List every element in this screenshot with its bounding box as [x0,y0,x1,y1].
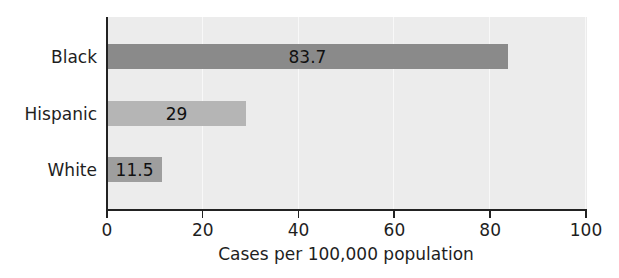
x-axis-title: Cases per 100,000 population [218,244,474,264]
x-tick-label: 60 [384,220,406,240]
bar-value-label: 83.7 [289,47,327,67]
bar-value-label: 29 [166,104,188,124]
category-label: Black [51,47,97,67]
bar-hispanic: 29 [107,101,246,126]
y-axis-line [106,17,108,210]
x-tick-label: 20 [192,220,214,240]
x-tick-label: 0 [102,220,113,240]
x-tick [585,209,587,218]
x-axis-line [106,209,587,211]
category-label: White [48,160,97,180]
x-tick-label: 40 [288,220,310,240]
x-tick-label: 100 [570,220,602,240]
bar-black: 83.7 [107,44,508,69]
x-tick-label: 80 [479,220,501,240]
x-tick [489,209,491,218]
x-tick [106,209,108,218]
x-tick [393,209,395,218]
bar-white: 11.5 [107,157,162,182]
x-tick [298,209,300,218]
x-tick [202,209,204,218]
bar-value-label: 11.5 [116,160,154,180]
gridline [585,17,586,209]
category-label: Hispanic [25,104,97,124]
